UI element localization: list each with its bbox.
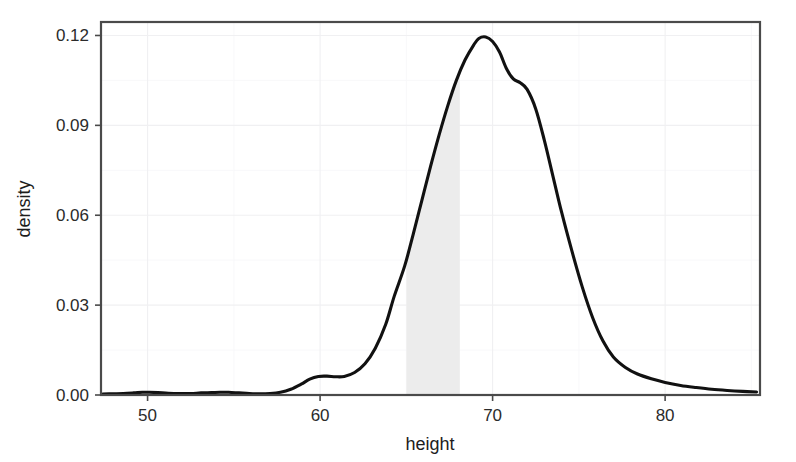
y-tick-label: 0.00	[56, 386, 89, 405]
x-tick-label: 80	[656, 406, 675, 425]
y-tick-label: 0.03	[56, 296, 89, 315]
y-tick-label: 0.12	[56, 26, 89, 45]
y-axis-title: density	[14, 180, 34, 237]
density-plot-canvas: 50607080 0.000.030.060.090.12 height den…	[0, 0, 796, 462]
x-tick-label: 70	[483, 406, 502, 425]
x-axis-title: height	[405, 434, 454, 454]
x-tick-label: 50	[138, 406, 157, 425]
x-tick-label: 60	[311, 406, 330, 425]
y-tick-label: 0.09	[56, 116, 89, 135]
y-tick-label: 0.06	[56, 206, 89, 225]
density-plot-figure: 50607080 0.000.030.060.090.12 height den…	[0, 0, 796, 462]
